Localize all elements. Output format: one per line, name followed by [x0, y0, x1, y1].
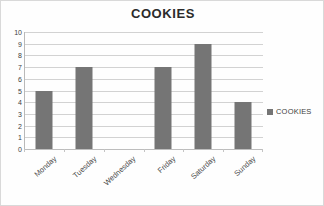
chart-container: COOKIES 109876543210 MondayTuesdayWednes…: [0, 0, 324, 206]
legend-label-cookies: COOKIES: [276, 107, 312, 116]
y-tick-label-10: 10: [4, 29, 22, 36]
x-label-monday: Monday: [33, 155, 58, 178]
chart-legend: COOKIES: [267, 107, 312, 116]
bar-slot: [24, 32, 64, 149]
bar-slot: [64, 32, 104, 149]
x-tick-mark: [223, 149, 224, 152]
y-tick-label-0: 0: [4, 146, 22, 153]
y-tick-label-7: 7: [4, 64, 22, 71]
bar[interactable]: [35, 91, 52, 150]
x-label-saturday: Saturday: [190, 155, 217, 181]
y-tick-label-6: 6: [4, 75, 22, 82]
x-label-sunday: Sunday: [233, 155, 257, 178]
x-tick-mark: [64, 149, 65, 152]
bar-slot: [183, 32, 223, 149]
x-tick-mark: [104, 149, 105, 152]
x-label-wednesday: Wednesday: [103, 155, 137, 187]
bar[interactable]: [235, 102, 252, 149]
x-tick-mark: [24, 149, 25, 152]
x-tick-mark: [144, 149, 145, 152]
y-tick-label-5: 5: [4, 87, 22, 94]
y-tick-label-9: 9: [4, 40, 22, 47]
y-tick-label-2: 2: [4, 122, 22, 129]
y-axis-tick-labels: 109876543210: [1, 32, 22, 149]
bar[interactable]: [195, 44, 212, 149]
x-tick-mark: [183, 149, 184, 152]
y-tick-label-1: 1: [4, 134, 22, 141]
chart-title: COOKIES: [1, 6, 324, 21]
x-label-tuesday: Tuesday: [71, 155, 97, 180]
x-axis-category-labels: MondayTuesdayWednesdayFridaySaturdaySund…: [24, 153, 263, 199]
bar[interactable]: [75, 67, 92, 149]
x-label-friday: Friday: [157, 155, 178, 175]
y-tick-label-3: 3: [4, 110, 22, 117]
x-tick-mark: [262, 149, 263, 152]
bar-series-cookies: [24, 32, 263, 149]
bar[interactable]: [155, 67, 172, 149]
bar-slot: [144, 32, 184, 149]
bar-slot: [104, 32, 144, 149]
y-tick-label-4: 4: [4, 99, 22, 106]
bar-slot: [223, 32, 263, 149]
legend-swatch-cookies: [267, 109, 273, 115]
y-tick-label-8: 8: [4, 52, 22, 59]
